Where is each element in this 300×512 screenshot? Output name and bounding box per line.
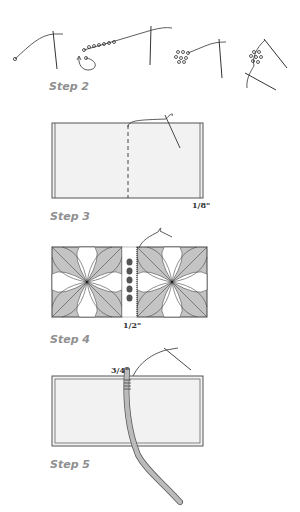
thread <box>133 348 178 376</box>
thread <box>139 228 172 248</box>
needle <box>164 348 191 370</box>
step2-label: Step 2 <box>49 80 89 93</box>
step2-illustration <box>0 0 300 110</box>
step3-measurement: 1/8" <box>192 200 210 210</box>
step4-measurement: 1/2" <box>123 320 141 330</box>
panel <box>52 123 203 198</box>
needle-3 <box>219 39 222 78</box>
pattern-square-right <box>137 247 207 317</box>
pattern-square-left <box>52 247 122 317</box>
needle-4b <box>245 73 276 90</box>
needle-4a <box>264 39 287 68</box>
needle-1 <box>53 31 57 69</box>
step4-illustration <box>0 220 300 330</box>
bead-string <box>83 41 116 60</box>
bead-cluster-1 <box>175 51 190 64</box>
step5-illustration <box>0 340 300 512</box>
step3-illustration <box>0 100 300 210</box>
step5-label: Step 5 <box>50 458 90 471</box>
step5-measurement: 3/4" <box>111 365 129 375</box>
needle-2 <box>150 26 151 65</box>
